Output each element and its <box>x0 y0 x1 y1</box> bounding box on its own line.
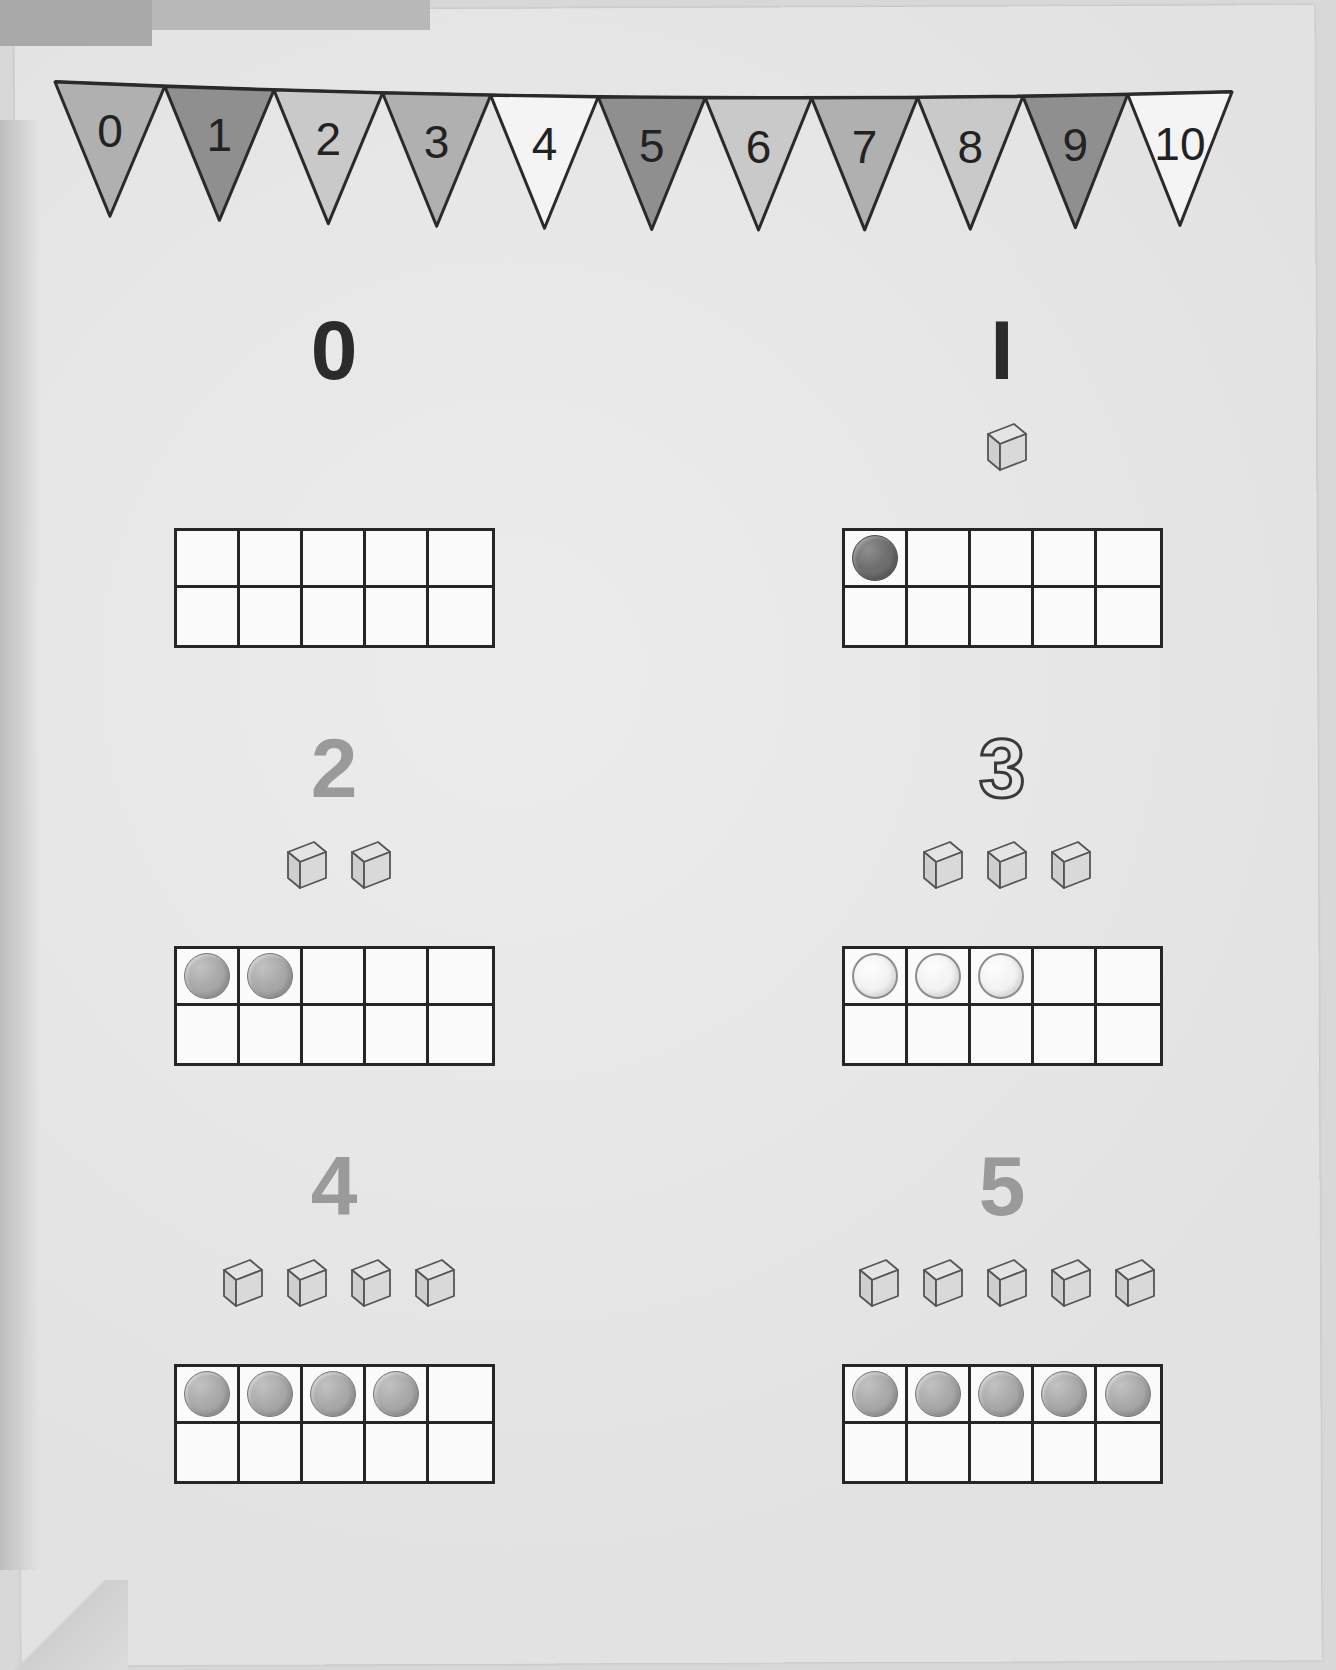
ten-frame-cell[interactable] <box>303 1006 366 1063</box>
ten-frame-cell[interactable] <box>1097 588 1160 645</box>
ten-frame-cell[interactable] <box>1034 949 1097 1006</box>
ten-frame-cell[interactable] <box>1034 531 1097 588</box>
empty-slot <box>184 1430 230 1476</box>
ten-frame-cell[interactable] <box>1097 531 1160 588</box>
unit-cube-icon <box>338 1256 394 1318</box>
empty-slot <box>1105 1430 1151 1476</box>
ten-frame-cell[interactable] <box>1034 1006 1097 1063</box>
ten-frame-cell[interactable] <box>240 1424 303 1481</box>
ten-frame-cell[interactable] <box>908 1424 971 1481</box>
ten-frame-cell[interactable] <box>845 1367 908 1424</box>
empty-slot <box>437 1012 483 1058</box>
ten-frame-cell[interactable] <box>366 531 429 588</box>
empty-slot <box>1041 953 1087 999</box>
ten-frame-cell[interactable] <box>908 1006 971 1063</box>
empty-slot <box>1105 953 1151 999</box>
ten-frame-cell[interactable] <box>971 1006 1034 1063</box>
ten-frame-cell[interactable] <box>303 531 366 588</box>
empty-slot <box>437 594 483 640</box>
ten-frame-cell[interactable] <box>1034 588 1097 645</box>
ten-frame-cell[interactable] <box>429 531 492 588</box>
ten-frame-cell[interactable] <box>1097 1006 1160 1063</box>
ten-frame-cell[interactable] <box>429 1424 492 1481</box>
counter-disc <box>852 535 898 581</box>
empty-slot <box>1041 1430 1087 1476</box>
counter-disc <box>184 953 230 999</box>
ten-frame-cell[interactable] <box>366 588 429 645</box>
ten-frame-cell[interactable] <box>177 531 240 588</box>
ten-frame-cell[interactable] <box>177 949 240 1006</box>
ten-frame[interactable] <box>842 528 1163 648</box>
ten-frame-cell[interactable] <box>908 949 971 1006</box>
page-fold <box>8 1580 128 1670</box>
empty-slot <box>1105 594 1151 640</box>
ten-frame-cell[interactable] <box>429 1367 492 1424</box>
empty-slot <box>437 535 483 581</box>
unit-cube <box>338 838 394 904</box>
ten-frame-cell[interactable] <box>177 588 240 645</box>
ten-frame-cell[interactable] <box>845 588 908 645</box>
empty-slot <box>1041 535 1087 581</box>
ten-frame-cell[interactable] <box>908 531 971 588</box>
ten-frame[interactable] <box>174 528 495 648</box>
ten-frame-cell[interactable] <box>1097 949 1160 1006</box>
ten-frame-cell[interactable] <box>177 1424 240 1481</box>
ten-frame-cell[interactable] <box>429 1006 492 1063</box>
ten-frame-cell[interactable] <box>1034 1424 1097 1481</box>
ten-frame-cell[interactable] <box>845 531 908 588</box>
ten-frame-cell[interactable] <box>366 1424 429 1481</box>
ten-frame-cell[interactable] <box>1097 1424 1160 1481</box>
ten-frame-cell[interactable] <box>366 1006 429 1063</box>
ten-frame-wrap <box>668 946 1336 1066</box>
ten-frame-cell[interactable] <box>240 588 303 645</box>
unit-cube <box>1102 1256 1158 1322</box>
ten-frame-cell[interactable] <box>303 588 366 645</box>
ten-frame-cell[interactable] <box>303 1424 366 1481</box>
ten-frame-cell[interactable] <box>366 949 429 1006</box>
ten-frame[interactable] <box>174 946 495 1066</box>
ten-frame-cell[interactable] <box>971 588 1034 645</box>
ten-frame-cell[interactable] <box>908 1367 971 1424</box>
ten-frame-cell[interactable] <box>1034 1367 1097 1424</box>
ten-frame-cell[interactable] <box>177 1367 240 1424</box>
ten-frame-cell[interactable] <box>845 949 908 1006</box>
ten-frame-cell[interactable] <box>240 531 303 588</box>
ten-frame-cell[interactable] <box>845 1424 908 1481</box>
empty-slot <box>852 1430 898 1476</box>
ten-frame-cell[interactable] <box>971 531 1034 588</box>
ten-frame-cell[interactable] <box>845 1006 908 1063</box>
ten-frame-cell[interactable] <box>429 949 492 1006</box>
unit-cube <box>974 838 1030 904</box>
ten-frame[interactable] <box>842 946 1163 1066</box>
ten-frame-cell[interactable] <box>971 949 1034 1006</box>
ten-frame-cell[interactable] <box>908 588 971 645</box>
unit-cube <box>910 838 966 904</box>
counter-disc <box>915 953 961 999</box>
ten-frame[interactable] <box>842 1364 1163 1484</box>
ten-frame-wrap <box>0 1364 668 1484</box>
ten-frame-cell[interactable] <box>177 1006 240 1063</box>
ten-frame-cell[interactable] <box>1097 1367 1160 1424</box>
empty-slot <box>978 1430 1024 1476</box>
ten-frame-cell[interactable] <box>303 1367 366 1424</box>
ten-frame-cell[interactable] <box>971 1367 1034 1424</box>
unit-cube <box>846 1256 902 1322</box>
empty-slot <box>247 535 293 581</box>
empty-slot <box>1041 594 1087 640</box>
counter-disc <box>247 953 293 999</box>
ten-frame-cell[interactable] <box>429 588 492 645</box>
ten-frame-cell[interactable] <box>240 1367 303 1424</box>
empty-slot <box>184 594 230 640</box>
ten-frame-cell[interactable] <box>971 1424 1034 1481</box>
unit-cube <box>974 420 1030 486</box>
ten-frame-cell[interactable] <box>240 949 303 1006</box>
unit-cube <box>338 1256 394 1322</box>
counter-disc <box>852 1371 898 1417</box>
ten-frame-cell[interactable] <box>240 1006 303 1063</box>
ten-frame-cell[interactable] <box>366 1367 429 1424</box>
unit-cube-icon <box>1102 1256 1158 1318</box>
empty-slot <box>373 953 419 999</box>
ten-frame-cell[interactable] <box>303 949 366 1006</box>
empty-slot <box>437 1430 483 1476</box>
ten-frame[interactable] <box>174 1364 495 1484</box>
